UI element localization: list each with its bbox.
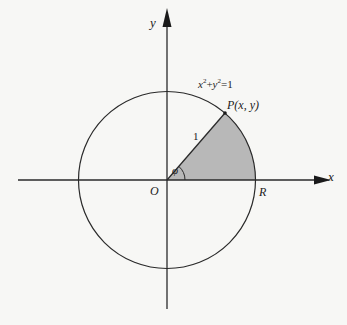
origin-label: O: [150, 184, 159, 198]
y-axis-arrow-icon: [163, 8, 172, 27]
y-axis-label: y: [148, 15, 156, 30]
angle-label: φ: [172, 164, 178, 176]
radius-label: 1: [193, 130, 199, 142]
eq-rhs: =1: [221, 78, 233, 90]
point-p-label: P(x, y): [226, 98, 259, 112]
r-label: R: [258, 185, 267, 199]
x-axis-label: x: [327, 169, 334, 184]
shaded-sector: [167, 113, 256, 180]
svg-text:x2+y2=1: x2+y2=1: [197, 77, 233, 90]
circle-equation: x2+y2=1: [197, 77, 233, 90]
unit-circle-diagram: y x O R P(x, y) 1 φ x2+y2=1: [0, 0, 347, 325]
